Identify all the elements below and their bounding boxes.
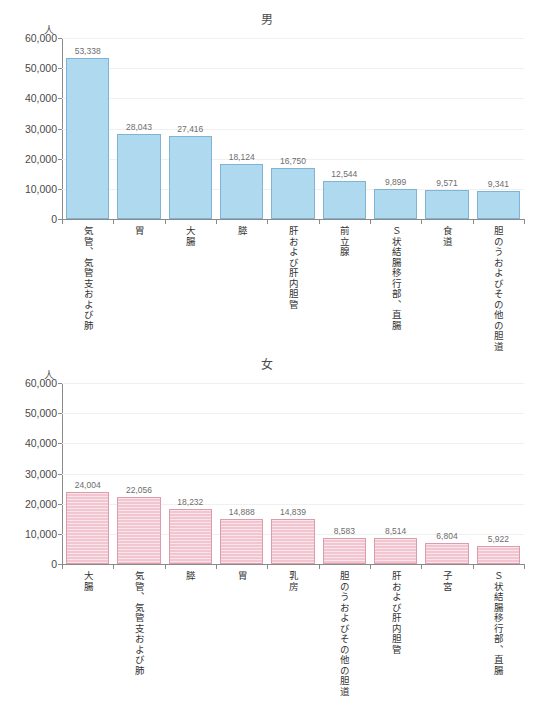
x-category-label: 前立腺 — [339, 226, 349, 258]
x-category: 気管、気管支および肺 — [113, 571, 164, 676]
bar-slot: 24,004 — [62, 383, 113, 564]
x-axis-tick — [421, 219, 422, 224]
male-x-axis-line — [61, 219, 525, 220]
x-category: 気管、気管支および肺 — [62, 226, 113, 331]
x-category: Ｓ状結腸移行部、直腸 — [473, 571, 524, 676]
x-category-label: 胆のうおよびその他の胆道 — [339, 571, 349, 697]
bar[interactable] — [374, 538, 417, 564]
female-y-tick-label: 20,000 — [25, 498, 57, 510]
bar-value-label: 8,583 — [319, 526, 370, 536]
bar-slot: 6,804 — [421, 383, 472, 564]
bar-slot: 12,544 — [319, 38, 370, 219]
bar-value-label: 9,571 — [421, 178, 472, 188]
bar[interactable] — [220, 519, 263, 564]
x-category: 肝および肝内胆管 — [370, 571, 421, 655]
female-x-categories: 大腸気管、気管支および肺膵胃乳房胆のうおよびその他の胆道肝および肝内胆管子宮Ｓ状… — [62, 569, 524, 699]
bar[interactable] — [220, 164, 263, 219]
bar-slot: 9,341 — [473, 38, 524, 219]
bar-slot: 16,750 — [267, 38, 318, 219]
x-category-label: 胆のうおよびその他の胆道 — [493, 226, 503, 352]
female-chart-title: 女 — [0, 355, 535, 372]
x-category-label: 膵 — [237, 226, 247, 237]
female-bar-chart: 女 人 010,00020,00030,00040,00050,00060,00… — [0, 345, 535, 703]
bar-value-label: 14,888 — [216, 507, 267, 517]
female-y-tick-label: 50,000 — [25, 407, 57, 419]
bar[interactable] — [66, 492, 109, 564]
x-axis-tick — [319, 564, 320, 569]
x-axis-tick — [473, 219, 474, 224]
x-category-label: 肝および肝内胆管 — [391, 571, 401, 655]
x-axis-tick — [62, 564, 63, 569]
bar-value-label: 18,232 — [165, 497, 216, 507]
bar-slot: 22,056 — [113, 383, 164, 564]
bar-slot: 8,514 — [370, 383, 421, 564]
bar-value-label: 53,338 — [62, 46, 113, 56]
bar-slot: 28,043 — [113, 38, 164, 219]
female-y-tick-label: 60,000 — [25, 377, 57, 389]
x-axis-tick — [473, 564, 474, 569]
bar-slot: 18,124 — [216, 38, 267, 219]
x-axis-tick — [370, 564, 371, 569]
x-category: 胆のうおよびその他の胆道 — [319, 571, 370, 697]
bar-value-label: 5,922 — [473, 534, 524, 544]
x-category: 肝および肝内胆管 — [267, 226, 318, 310]
bar[interactable] — [425, 543, 468, 564]
x-category-label: Ｓ状結腸移行部、直腸 — [391, 226, 401, 331]
female-bars: 24,00422,05618,23214,88814,8398,5838,514… — [62, 383, 524, 564]
x-category: 大腸 — [62, 571, 113, 592]
bar[interactable] — [374, 189, 417, 219]
bar[interactable] — [117, 134, 160, 219]
x-category: 食道 — [421, 226, 472, 247]
x-category: 前立腺 — [319, 226, 370, 258]
x-category-label: 気管、気管支および肺 — [134, 571, 144, 676]
bar[interactable] — [117, 497, 160, 564]
x-category: 胃 — [113, 226, 164, 237]
x-category-label: 食道 — [442, 226, 452, 247]
x-axis-tick — [216, 219, 217, 224]
x-category: 乳房 — [267, 571, 318, 592]
male-bars: 53,33828,04327,41618,12416,75012,5449,89… — [62, 38, 524, 219]
bar-value-label: 16,750 — [267, 156, 318, 166]
bar-value-label: 27,416 — [165, 124, 216, 134]
bar[interactable] — [169, 136, 212, 219]
x-category: 膵 — [216, 226, 267, 237]
x-category-label: 肝および肝内胆管 — [288, 226, 298, 310]
x-axis-tick — [267, 564, 268, 569]
x-category-label: 大腸 — [185, 226, 195, 247]
bar-slot: 14,839 — [267, 383, 318, 564]
bar[interactable] — [477, 546, 520, 564]
bar[interactable] — [323, 538, 366, 564]
x-category-label: 子宮 — [442, 571, 452, 592]
male-y-tick-label: 40,000 — [25, 92, 57, 104]
bar-slot: 18,232 — [165, 383, 216, 564]
bar-value-label: 24,004 — [62, 480, 113, 490]
male-bar-chart: 男 人 010,00020,00030,00040,00050,00060,00… — [0, 0, 535, 345]
bar-value-label: 22,056 — [113, 485, 164, 495]
bar[interactable] — [477, 191, 520, 219]
x-axis-tick — [370, 219, 371, 224]
x-category-label: 胃 — [134, 226, 144, 237]
x-category: Ｓ状結腸移行部、直腸 — [370, 226, 421, 331]
bar-value-label: 18,124 — [216, 152, 267, 162]
bar-slot: 53,338 — [62, 38, 113, 219]
bar[interactable] — [169, 509, 212, 564]
bar[interactable] — [323, 181, 366, 219]
bar[interactable] — [271, 519, 314, 564]
x-category-label: Ｓ状結腸移行部、直腸 — [493, 571, 503, 676]
x-axis-tick — [113, 219, 114, 224]
x-category: 膵 — [165, 571, 216, 582]
x-axis-tick — [524, 219, 525, 224]
male-y-tick-label: 10,000 — [25, 183, 57, 195]
x-category: 胆のうおよびその他の胆道 — [473, 226, 524, 352]
bar-value-label: 6,804 — [421, 531, 472, 541]
bar-value-label: 8,514 — [370, 526, 421, 536]
x-category: 子宮 — [421, 571, 472, 592]
bar[interactable] — [271, 168, 314, 219]
x-axis-tick — [319, 219, 320, 224]
bar-value-label: 12,544 — [319, 169, 370, 179]
bar[interactable] — [425, 190, 468, 219]
female-plot-area: 010,00020,00030,00040,00050,00060,000 24… — [62, 383, 524, 564]
x-axis-tick — [421, 564, 422, 569]
bar[interactable] — [66, 58, 109, 219]
x-category-label: 膵 — [185, 571, 195, 582]
